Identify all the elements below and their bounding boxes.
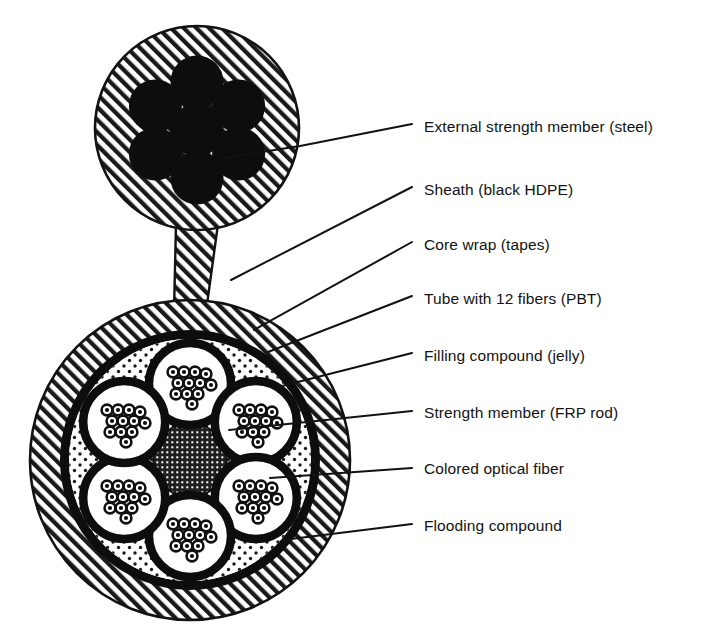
external-strength-member-assembly bbox=[95, 26, 299, 230]
steel-wire-5 bbox=[129, 128, 182, 181]
figure-canvas: External strength member (steel) Sheath … bbox=[0, 0, 712, 638]
label-strength-member: Strength member (FRP rod) bbox=[424, 404, 618, 421]
label-core-wrap: Core wrap (tapes) bbox=[424, 236, 550, 253]
tube-with-fibers-5 bbox=[83, 457, 165, 539]
label-colored-optical-fiber: Colored optical fiber bbox=[424, 460, 564, 477]
tube-with-fibers-2 bbox=[215, 381, 297, 463]
tube-with-fibers-6 bbox=[83, 381, 165, 463]
cable-core-assembly bbox=[30, 300, 350, 620]
steel-wire-2 bbox=[212, 80, 265, 133]
label-sheath: Sheath (black HDPE) bbox=[424, 181, 573, 198]
label-filling-compound: Filling compound (jelly) bbox=[424, 347, 585, 364]
label-tube-with-fibers: Tube with 12 fibers (PBT) bbox=[424, 290, 602, 307]
label-external-strength-member: External strength member (steel) bbox=[424, 118, 653, 135]
steel-wire-6 bbox=[129, 80, 182, 133]
cable-cross-section-diagram: External strength member (steel) Sheath … bbox=[0, 0, 712, 638]
label-flooding-compound: Flooding compound bbox=[424, 517, 562, 534]
